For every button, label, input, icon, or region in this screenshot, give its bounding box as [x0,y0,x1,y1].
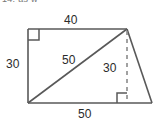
dimension-label-bottom-side: 50 [78,108,91,120]
geometry-figure-canvas: 14. as w 40 30 50 30 50 [0,0,158,125]
dimension-label-top-side: 40 [64,14,77,26]
trapezoid-outline [28,29,152,103]
right-angle-marker-top-left-icon [28,29,39,40]
right-slant-side-line [127,29,152,103]
right-angle-marker-base-icon [117,93,127,103]
dimension-label-left-side: 30 [6,58,19,70]
dimension-label-diagonal: 50 [62,54,75,66]
dimension-label-altitude: 30 [103,62,116,74]
